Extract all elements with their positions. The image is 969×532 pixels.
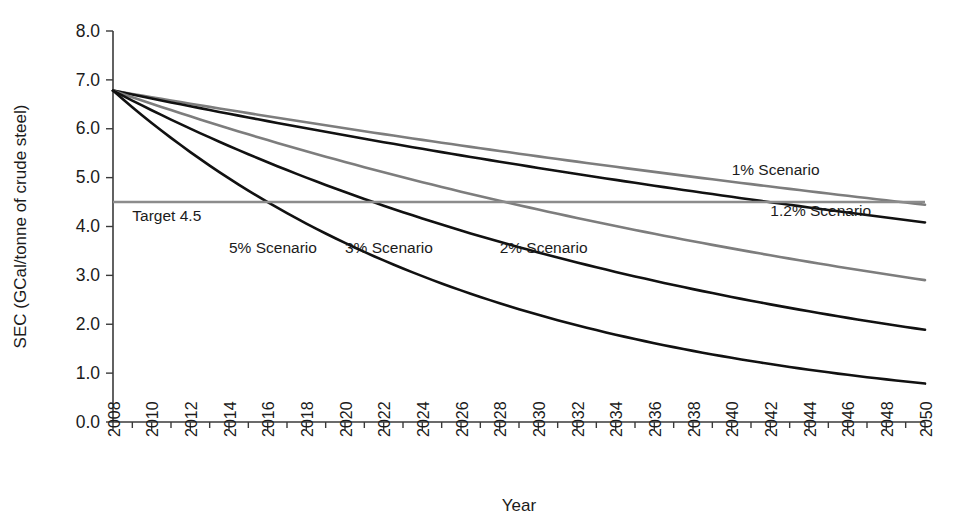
x-axis-tick-label: 2010 xyxy=(144,401,161,437)
series-annotations: 1% Scenario1.2% Scenario2% Scenario3% Sc… xyxy=(229,161,871,256)
series-label-2: 2% Scenario xyxy=(500,239,588,256)
x-axis-tick-label: 2022 xyxy=(376,401,393,437)
x-axis-tick-label: 2036 xyxy=(647,401,664,437)
y-axis-tick-label: 7.0 xyxy=(76,70,101,90)
x-axis-tick-label: 2026 xyxy=(454,401,471,437)
x-axis-tick-label: 2048 xyxy=(879,401,896,437)
y-axis-tick-label: 2.0 xyxy=(76,314,101,334)
x-axis-tick-label: 2042 xyxy=(763,401,780,437)
y-axis-tick-label: 4.0 xyxy=(76,216,101,236)
series-label-1.2: 1.2% Scenario xyxy=(770,202,871,219)
sec-scenarios-line-chart: 0.01.02.03.04.05.06.07.08.0 200820102012… xyxy=(0,0,969,532)
x-axis-tick-label: 2008 xyxy=(106,401,123,437)
x-axis-tick-label: 2012 xyxy=(183,401,200,437)
x-axis-tick-label: 2028 xyxy=(492,401,509,437)
target-line-label: Target 4.5 xyxy=(132,207,201,224)
y-axis: 0.01.02.03.04.05.06.07.08.0 xyxy=(76,21,113,432)
series-label-1: 1% Scenario xyxy=(732,161,820,178)
series-curve-5 xyxy=(113,91,925,384)
x-axis-tick-label: 2030 xyxy=(531,401,548,437)
x-axis-tick-label: 2024 xyxy=(415,401,432,437)
x-axis-tick-label: 2016 xyxy=(260,401,277,437)
y-axis-tick-label: 0.0 xyxy=(76,412,101,432)
y-axis-tick-label: 1.0 xyxy=(76,363,101,383)
chart-canvas: 0.01.02.03.04.05.06.07.08.0 200820102012… xyxy=(0,0,969,532)
y-axis-title: SEC (GCal/tonne of crude steel) xyxy=(11,105,30,349)
x-axis-tick-label: 2044 xyxy=(802,401,819,437)
series-label-5: 5% Scenario xyxy=(229,239,317,256)
y-axis-tick-label: 8.0 xyxy=(76,21,101,41)
y-axis-tick-label: 5.0 xyxy=(76,167,101,187)
x-axis-tick-label: 2040 xyxy=(724,401,741,437)
x-axis: 2008201020122014201620182020202220242026… xyxy=(106,401,935,437)
y-axis-tick-label: 3.0 xyxy=(76,265,101,285)
x-axis-tick-label: 2038 xyxy=(686,401,703,437)
x-axis-tick-label: 2018 xyxy=(299,401,316,437)
x-axis-title: Year xyxy=(502,496,537,515)
series-lines xyxy=(113,91,925,384)
x-axis-tick-label: 2034 xyxy=(608,401,625,437)
x-axis-tick-label: 2050 xyxy=(918,401,935,437)
x-axis-tick-label: 2020 xyxy=(338,401,355,437)
x-axis-tick-label: 2032 xyxy=(570,401,587,437)
x-axis-tick-label: 2014 xyxy=(222,401,239,437)
y-axis-tick-label: 6.0 xyxy=(76,118,101,138)
x-axis-tick-label: 2046 xyxy=(840,401,857,437)
series-label-3: 3% Scenario xyxy=(345,239,433,256)
